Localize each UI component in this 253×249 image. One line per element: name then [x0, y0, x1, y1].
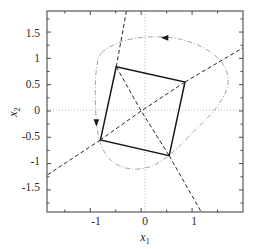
x-axis-label: x1: [126, 230, 164, 246]
ytick-label-neg1.5: -1.5: [2, 181, 40, 193]
y-axis-label: x2: [6, 93, 22, 131]
ytick-label-0.5: 0.5: [2, 78, 40, 90]
xtick-label-neg1: -1: [76, 215, 116, 227]
ytick-label-1: 1: [2, 52, 40, 64]
ytick-label-neg0.5: -0.5: [2, 130, 40, 142]
xtick-label-0: 0: [125, 215, 165, 227]
ytick-label-neg1: -1: [2, 155, 40, 167]
ytick-label-1.5: 1.5: [2, 27, 40, 39]
figure-container: · · · · · ·: [0, 0, 253, 249]
xtick-label-1: 1: [174, 215, 214, 227]
